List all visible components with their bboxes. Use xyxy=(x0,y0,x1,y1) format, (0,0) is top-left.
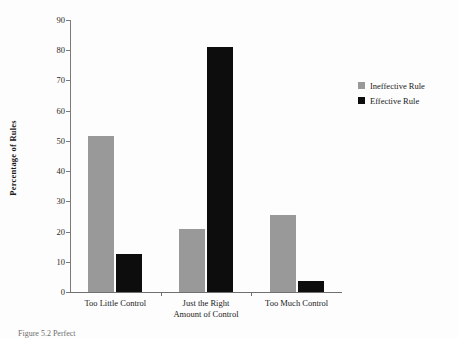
bar xyxy=(298,281,324,292)
legend-swatch-ineffective-rule xyxy=(358,82,365,89)
x-axis-line xyxy=(70,292,342,293)
y-tick-mark xyxy=(66,201,70,202)
y-tick-label: 60 xyxy=(57,106,66,116)
y-tick-label: 70 xyxy=(57,75,66,85)
bar xyxy=(88,136,114,292)
y-tick-label: 30 xyxy=(57,196,66,206)
x-tick-mark xyxy=(251,292,252,296)
y-tick-mark xyxy=(66,292,70,293)
legend-label-effective-rule: Effective Rule xyxy=(370,96,419,106)
y-tick-mark xyxy=(66,141,70,142)
y-tick-label: 90 xyxy=(57,15,66,25)
x-category-label-line: Just the Right xyxy=(161,298,252,309)
chart-legend: Ineffective Rule Effective Rule xyxy=(358,78,425,108)
legend-swatch-effective-rule xyxy=(358,97,365,104)
plot-area: 9080706050403020100 Too Little ControlJu… xyxy=(70,20,342,292)
y-tick-mark xyxy=(66,171,70,172)
y-tick-mark xyxy=(66,80,70,81)
y-tick-mark xyxy=(66,262,70,263)
x-category-label-line: Too Much Control xyxy=(251,298,342,309)
x-category-label: Too Much Control xyxy=(251,298,342,309)
x-category-label-line: Too Little Control xyxy=(70,298,161,309)
y-tick-label: 40 xyxy=(57,166,66,176)
y-tick-label: 20 xyxy=(57,227,66,237)
y-tick-mark xyxy=(66,50,70,51)
legend-item-effective-rule: Effective Rule xyxy=(358,93,425,108)
bar xyxy=(179,229,205,292)
bar xyxy=(270,215,296,292)
x-category-label: Just the RightAmount of Control xyxy=(161,298,252,320)
bar xyxy=(116,254,142,292)
bar xyxy=(207,47,233,292)
x-tick-mark xyxy=(161,292,162,296)
figure-caption: Figure 5.2 Perfect xyxy=(18,329,76,338)
y-tick-mark xyxy=(66,111,70,112)
y-tick-mark xyxy=(66,232,70,233)
y-tick-label: 50 xyxy=(57,136,66,146)
y-axis-title: Percentage of Rules xyxy=(8,88,18,228)
y-axis-line xyxy=(70,20,71,292)
figure-chart: Percentage of Rules 9080706050403020100 … xyxy=(0,0,458,338)
x-category-label-line: Amount of Control xyxy=(161,309,252,320)
legend-label-ineffective-rule: Ineffective Rule xyxy=(370,81,425,91)
legend-item-ineffective-rule: Ineffective Rule xyxy=(358,78,425,93)
y-tick-label: 0 xyxy=(61,287,65,297)
y-tick-label: 10 xyxy=(57,257,66,267)
x-category-label: Too Little Control xyxy=(70,298,161,309)
y-tick-mark xyxy=(66,20,70,21)
y-tick-label: 80 xyxy=(57,45,66,55)
